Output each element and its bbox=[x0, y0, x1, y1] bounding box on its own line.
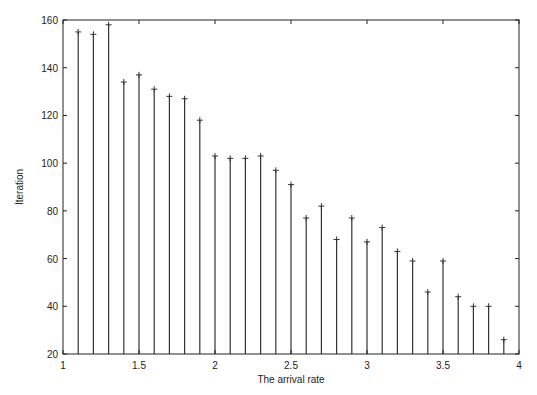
y-tick-label: 20 bbox=[47, 349, 59, 360]
data-stems bbox=[75, 22, 507, 354]
stem bbox=[318, 203, 324, 354]
stem bbox=[440, 258, 446, 354]
stem bbox=[90, 31, 96, 354]
x-tick-label: 3 bbox=[364, 360, 370, 371]
stem bbox=[486, 303, 492, 354]
x-tick-label: 1 bbox=[60, 360, 66, 371]
y-tick-label: 140 bbox=[41, 63, 58, 74]
stem bbox=[410, 258, 416, 354]
stem-plot: 11.522.533.54 20406080100120140160 The a… bbox=[0, 0, 537, 395]
stem bbox=[151, 86, 157, 354]
stem bbox=[273, 167, 279, 354]
stem bbox=[121, 79, 127, 354]
y-tick-label: 160 bbox=[41, 15, 58, 26]
x-tick-label: 4 bbox=[516, 360, 522, 371]
stem bbox=[288, 182, 294, 354]
y-tick-label: 100 bbox=[41, 158, 58, 169]
stem bbox=[455, 294, 461, 354]
stem bbox=[106, 22, 112, 354]
stem bbox=[197, 117, 203, 354]
stem bbox=[166, 93, 172, 354]
stem bbox=[75, 29, 81, 354]
chart: 11.522.533.54 20406080100120140160 The a… bbox=[0, 0, 537, 395]
x-tick-label: 2 bbox=[212, 360, 218, 371]
y-axis-ticks: 20406080100120140160 bbox=[41, 15, 519, 360]
stem bbox=[349, 215, 355, 354]
x-tick-label: 1.5 bbox=[132, 360, 146, 371]
stem bbox=[425, 289, 431, 354]
stem bbox=[136, 72, 142, 354]
stem bbox=[212, 153, 218, 354]
y-tick-label: 60 bbox=[47, 254, 59, 265]
x-tick-label: 2.5 bbox=[284, 360, 298, 371]
stem bbox=[394, 248, 400, 354]
x-tick-label: 3.5 bbox=[436, 360, 450, 371]
y-tick-label: 40 bbox=[47, 301, 59, 312]
x-axis-label: The arrival rate bbox=[257, 374, 325, 385]
stem bbox=[258, 153, 264, 354]
stem bbox=[334, 236, 340, 354]
stem bbox=[379, 225, 385, 354]
stem bbox=[470, 303, 476, 354]
stem bbox=[182, 96, 188, 354]
y-tick-label: 120 bbox=[41, 110, 58, 121]
stem bbox=[227, 155, 233, 354]
stem bbox=[242, 155, 248, 354]
y-tick-label: 80 bbox=[47, 206, 59, 217]
stem bbox=[303, 215, 309, 354]
stem bbox=[501, 337, 507, 354]
stem bbox=[364, 239, 370, 354]
y-axis-label: Iteration bbox=[14, 169, 25, 205]
